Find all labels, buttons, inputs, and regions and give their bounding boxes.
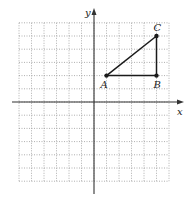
coordinate-plane: x y ABC xyxy=(0,0,193,203)
point-a xyxy=(104,73,108,77)
y-axis-label: y xyxy=(84,7,91,18)
point-label-b: B xyxy=(153,79,161,90)
triangle-abc xyxy=(107,36,157,76)
y-axis-arrow-icon xyxy=(92,8,97,15)
point-b xyxy=(154,73,158,77)
x-axis-label: x xyxy=(177,106,183,117)
point-label-a: A xyxy=(100,79,108,90)
point-c xyxy=(154,34,158,38)
point-label-c: C xyxy=(154,22,162,33)
x-axis-arrow-icon xyxy=(177,100,184,105)
segment-ac xyxy=(107,36,157,76)
